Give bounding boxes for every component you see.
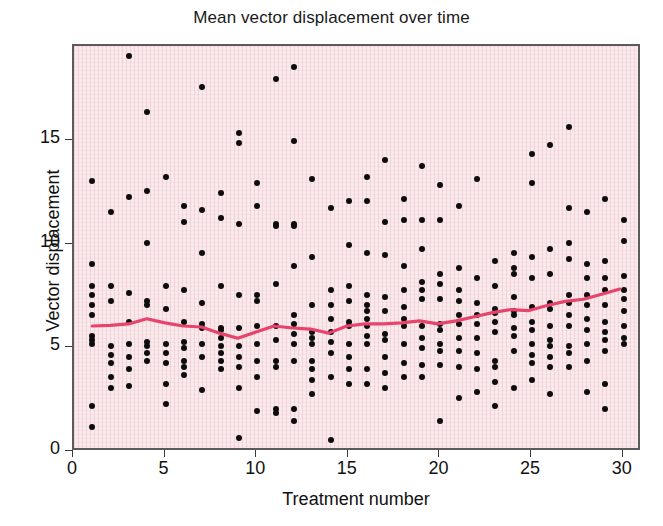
data-point bbox=[602, 381, 608, 387]
data-point bbox=[181, 345, 187, 351]
data-point bbox=[492, 329, 498, 335]
data-point bbox=[566, 350, 572, 356]
chart-title: Mean vector displacement over time bbox=[0, 8, 663, 28]
data-point bbox=[89, 424, 95, 430]
data-point bbox=[511, 250, 517, 256]
data-point bbox=[456, 298, 462, 304]
data-point bbox=[602, 337, 608, 343]
data-point bbox=[474, 350, 480, 356]
data-point bbox=[401, 196, 407, 202]
data-point bbox=[236, 385, 242, 391]
data-point bbox=[236, 325, 242, 331]
data-point bbox=[181, 339, 187, 345]
x-tick-label: 15 bbox=[317, 458, 377, 479]
data-point bbox=[621, 217, 627, 223]
y-tick bbox=[65, 139, 72, 140]
data-point bbox=[144, 188, 150, 194]
data-point bbox=[291, 341, 297, 347]
data-point bbox=[199, 300, 205, 306]
data-point bbox=[419, 163, 425, 169]
data-point bbox=[492, 319, 498, 325]
x-tick bbox=[347, 450, 348, 457]
data-point bbox=[309, 358, 315, 364]
data-point bbox=[309, 366, 315, 372]
data-point bbox=[273, 337, 279, 343]
data-point bbox=[621, 341, 627, 347]
data-point bbox=[346, 198, 352, 204]
data-point bbox=[328, 339, 334, 345]
data-point bbox=[309, 391, 315, 397]
data-point bbox=[328, 287, 334, 293]
data-point bbox=[218, 335, 224, 341]
data-point bbox=[108, 298, 114, 304]
x-tick bbox=[72, 450, 73, 457]
data-point bbox=[419, 287, 425, 293]
data-point bbox=[273, 358, 279, 364]
data-point bbox=[401, 323, 407, 329]
data-point bbox=[291, 223, 297, 229]
data-point bbox=[309, 335, 315, 341]
data-point bbox=[291, 321, 297, 327]
data-point bbox=[566, 323, 572, 329]
data-point bbox=[437, 418, 443, 424]
data-point bbox=[529, 151, 535, 157]
data-point bbox=[492, 258, 498, 264]
data-point bbox=[254, 323, 260, 329]
y-axis-label: Vector displacement bbox=[43, 48, 64, 454]
data-point bbox=[621, 296, 627, 302]
data-point bbox=[254, 180, 260, 186]
data-point bbox=[236, 130, 242, 136]
data-point bbox=[621, 273, 627, 279]
data-point bbox=[566, 240, 572, 246]
data-point bbox=[602, 406, 608, 412]
data-point bbox=[602, 348, 608, 354]
data-point bbox=[199, 341, 205, 347]
data-point bbox=[273, 410, 279, 416]
y-tick bbox=[65, 450, 72, 451]
data-point bbox=[218, 358, 224, 364]
x-tick-label: 25 bbox=[500, 458, 560, 479]
data-point bbox=[108, 352, 114, 358]
data-point bbox=[382, 385, 388, 391]
x-tick-label: 5 bbox=[134, 458, 194, 479]
data-point bbox=[382, 354, 388, 360]
data-point bbox=[108, 343, 114, 349]
data-point bbox=[602, 302, 608, 308]
data-point bbox=[163, 401, 169, 407]
data-point bbox=[437, 327, 443, 333]
x-tick-label: 0 bbox=[42, 458, 102, 479]
chart-figure: Mean vector displacement over time 05101… bbox=[0, 0, 663, 526]
data-point bbox=[529, 327, 535, 333]
data-point bbox=[456, 287, 462, 293]
data-point bbox=[492, 358, 498, 364]
data-point bbox=[126, 194, 132, 200]
data-point bbox=[254, 298, 260, 304]
data-point bbox=[547, 323, 553, 329]
data-point bbox=[566, 256, 572, 262]
data-point bbox=[382, 294, 388, 300]
data-point bbox=[401, 360, 407, 366]
data-point bbox=[364, 292, 370, 298]
data-point bbox=[236, 140, 242, 146]
data-point bbox=[181, 319, 187, 325]
data-point bbox=[566, 343, 572, 349]
data-point bbox=[419, 323, 425, 329]
data-point bbox=[419, 335, 425, 341]
data-point bbox=[126, 290, 132, 296]
data-point bbox=[584, 292, 590, 298]
data-point bbox=[401, 341, 407, 347]
x-tick bbox=[164, 450, 165, 457]
data-point bbox=[584, 327, 590, 333]
data-point bbox=[419, 217, 425, 223]
data-point bbox=[382, 331, 388, 337]
data-point bbox=[492, 403, 498, 409]
data-point bbox=[291, 418, 297, 424]
data-point bbox=[419, 296, 425, 302]
data-point bbox=[474, 321, 480, 327]
data-point bbox=[364, 333, 370, 339]
data-point bbox=[346, 341, 352, 347]
data-point bbox=[529, 352, 535, 358]
data-point bbox=[144, 109, 150, 115]
data-point bbox=[328, 437, 334, 443]
data-point bbox=[309, 341, 315, 347]
